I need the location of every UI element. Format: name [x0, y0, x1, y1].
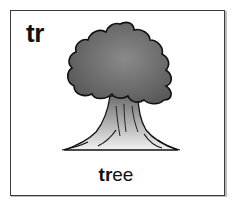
tree-icon: [58, 18, 184, 158]
word-blend: tr: [99, 164, 113, 185]
blend-letters: tr: [26, 20, 44, 46]
example-word: tree: [0, 165, 232, 184]
word-rest: ee: [112, 164, 133, 185]
